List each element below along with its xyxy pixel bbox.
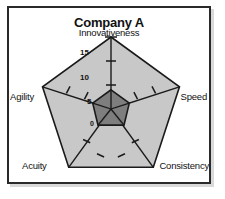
axis-label-consistency: Consistency [159,160,209,171]
chart-frame: Company A [7,6,211,184]
tick-label-10: 10 [80,73,89,82]
axis-label-acuity: Acuity [22,160,47,171]
tick-label-15: 15 [80,48,89,57]
axis-label-innovativeness: Innovativeness [79,27,140,38]
tick-label-0: 0 [90,120,94,127]
tick-label-5: 5 [87,97,91,106]
axis-label-speed: Speed [181,91,207,102]
axis-label-agility: Agility [10,91,34,102]
